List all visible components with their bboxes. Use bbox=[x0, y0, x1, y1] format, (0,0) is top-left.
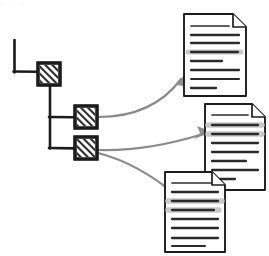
node-2-hatched-box[interactable] bbox=[75, 106, 97, 128]
document-top[interactable] bbox=[184, 14, 246, 96]
root-connector-l bbox=[14, 40, 39, 73]
node-3-hatched-box[interactable] bbox=[75, 137, 97, 159]
node-1-hatched-box[interactable] bbox=[38, 63, 60, 85]
node-2-hatch-fill bbox=[77, 108, 95, 126]
branch-connector-spine bbox=[49, 85, 75, 149]
node-3-hatch-fill bbox=[77, 139, 95, 157]
diagram-svg bbox=[0, 0, 269, 256]
node-1-hatch-fill bbox=[40, 65, 58, 83]
doc-middle-fold-corner bbox=[252, 104, 265, 117]
document-bottom[interactable] bbox=[165, 172, 225, 252]
node-group bbox=[38, 63, 97, 159]
tree-connector-lines bbox=[14, 40, 76, 149]
arrow-node2-to-doc-top bbox=[98, 69, 189, 117]
sketch-canvas: · · · · bbox=[0, 0, 269, 256]
arrow-node3-to-doc-middle bbox=[98, 126, 212, 150]
